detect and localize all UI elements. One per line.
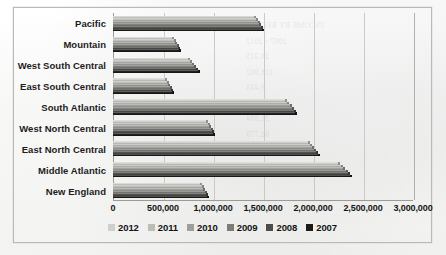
bar-end-cap bbox=[350, 175, 352, 178]
category-label: Mountain bbox=[63, 39, 106, 50]
category-label: Middle Atlantic bbox=[38, 164, 106, 175]
value-axis-tick-label: 1,000,000 bbox=[193, 203, 232, 213]
category-axis-labels: PacificMountainWest South CentralEast So… bbox=[14, 13, 110, 201]
category-label: West North Central bbox=[19, 122, 106, 133]
legend-swatch-icon bbox=[227, 224, 234, 231]
bar-end-cap bbox=[295, 112, 297, 115]
category-label: New England bbox=[46, 185, 106, 196]
bar-2007 bbox=[113, 175, 351, 178]
legend-swatch-icon bbox=[306, 224, 313, 231]
bar-2007 bbox=[113, 29, 263, 32]
category-label: East South Central bbox=[20, 81, 106, 92]
category-label: Pacific bbox=[75, 18, 106, 29]
bar-group bbox=[113, 99, 413, 114]
bar-2007 bbox=[113, 49, 180, 52]
value-axis-tick-label: 2,000,000 bbox=[293, 203, 332, 213]
bar-2007 bbox=[113, 154, 319, 157]
bar-group bbox=[113, 37, 413, 52]
legend-swatch-icon bbox=[108, 224, 115, 231]
bar-2007 bbox=[113, 70, 199, 73]
bar-end-cap bbox=[318, 154, 320, 157]
legend-item-2008[interactable]: 2008 bbox=[266, 222, 297, 233]
bar-2007 bbox=[113, 91, 173, 94]
legend-label: 2008 bbox=[276, 222, 297, 233]
legend-item-2011[interactable]: 2011 bbox=[148, 222, 178, 233]
value-axis-tick-label: 500,000 bbox=[147, 203, 179, 213]
bar-2007 bbox=[113, 112, 296, 115]
category-label: East North Central bbox=[22, 143, 106, 154]
bar-group bbox=[113, 162, 413, 177]
bar-end-cap bbox=[207, 196, 209, 199]
legend-swatch-icon bbox=[266, 224, 273, 231]
value-axis-tick-label: 2,500,000 bbox=[343, 203, 382, 213]
legend-label: 2011 bbox=[158, 222, 178, 233]
bar-group bbox=[113, 141, 413, 156]
bar-group bbox=[113, 16, 413, 31]
legend-item-2012[interactable]: 2012 bbox=[108, 222, 139, 233]
legend-label: 2010 bbox=[197, 222, 218, 233]
category-label: South Atlantic bbox=[41, 102, 106, 113]
bar-end-cap bbox=[198, 70, 200, 73]
legend-item-2009[interactable]: 2009 bbox=[227, 222, 258, 233]
bar-end-cap bbox=[172, 91, 174, 94]
bar-group bbox=[113, 78, 413, 93]
legend-swatch-icon bbox=[148, 224, 155, 231]
chart-legend: 201220112010200920082007 bbox=[14, 222, 431, 233]
legend-label: 2009 bbox=[237, 222, 258, 233]
value-axis-tick-label: 3,000,000 bbox=[393, 203, 432, 213]
category-label: West South Central bbox=[18, 60, 106, 71]
bar-2007 bbox=[113, 196, 208, 199]
bar-end-cap bbox=[262, 29, 264, 32]
bar-group bbox=[113, 183, 413, 198]
legend-item-2007[interactable]: 2007 bbox=[306, 222, 337, 233]
bar-end-cap bbox=[179, 49, 181, 52]
chart-frame: PacificMountainWest South CentralEast So… bbox=[13, 7, 432, 243]
bar-group bbox=[113, 120, 413, 135]
plot-wrapper bbox=[113, 13, 413, 201]
legend-swatch-icon bbox=[187, 224, 194, 231]
bar-end-cap bbox=[213, 133, 215, 136]
bar-group bbox=[113, 58, 413, 73]
bar-2007 bbox=[113, 133, 214, 136]
legend-item-2010[interactable]: 2010 bbox=[187, 222, 218, 233]
legend-label: 2012 bbox=[118, 222, 139, 233]
legend-label: 2007 bbox=[316, 222, 337, 233]
value-axis-tick-label: 1,500,000 bbox=[243, 203, 282, 213]
value-axis-labels: 0500,0001,000,0001,500,0002,000,0002,500… bbox=[113, 203, 413, 217]
value-axis-tick-label: 0 bbox=[111, 203, 116, 213]
gridline bbox=[414, 13, 415, 200]
